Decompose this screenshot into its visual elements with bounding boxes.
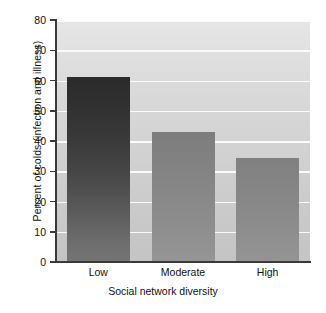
y-axis-line xyxy=(55,19,57,263)
bar-moderate xyxy=(152,132,215,262)
bar-low xyxy=(67,77,130,262)
gridline xyxy=(56,50,310,52)
y-tick-label: 50 xyxy=(22,105,46,117)
plot-area xyxy=(56,20,310,262)
x-tick-label-low: Low xyxy=(89,266,108,278)
y-tick-label: 10 xyxy=(22,226,46,238)
x-axis-line xyxy=(55,261,311,263)
y-tick-label: 0 xyxy=(22,256,46,268)
x-tick-label-high: High xyxy=(257,266,279,278)
y-tick-label: 30 xyxy=(22,165,46,177)
x-tick-label-moderate: Moderate xyxy=(161,266,205,278)
x-axis-title: Social network diversity xyxy=(0,285,326,297)
gridline xyxy=(56,20,310,22)
bar-chart-figure: Percent of colds (infection and illness)… xyxy=(0,0,326,313)
y-tick-label: 20 xyxy=(22,196,46,208)
bar-high xyxy=(236,158,299,262)
y-tick-label: 80 xyxy=(22,14,46,26)
y-tick-label: 60 xyxy=(22,75,46,87)
y-tick-label: 40 xyxy=(22,135,46,147)
y-tick-label: 70 xyxy=(22,44,46,56)
